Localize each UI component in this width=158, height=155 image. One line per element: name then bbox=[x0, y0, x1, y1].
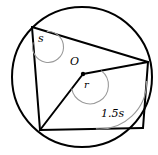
radius-center-to-right bbox=[83, 62, 148, 74]
angle-arc-1-5-s bbox=[96, 81, 147, 129]
geometry-figure: O s r 1.5s bbox=[0, 0, 158, 155]
chord-top-left-to-right bbox=[32, 27, 148, 62]
angle-label-s: s bbox=[38, 33, 44, 44]
radius-center-to-bottom-left bbox=[40, 74, 83, 130]
angle-label-one-point-five-s: 1.5s bbox=[101, 108, 124, 119]
chord-right-to-bottom-right bbox=[143, 62, 148, 128]
geometry-canvas bbox=[0, 0, 158, 155]
angle-label-r: r bbox=[84, 80, 89, 90]
center-point-label: O bbox=[70, 56, 79, 67]
center-point-dot bbox=[81, 72, 85, 76]
angle-arc-r bbox=[72, 71, 109, 104]
